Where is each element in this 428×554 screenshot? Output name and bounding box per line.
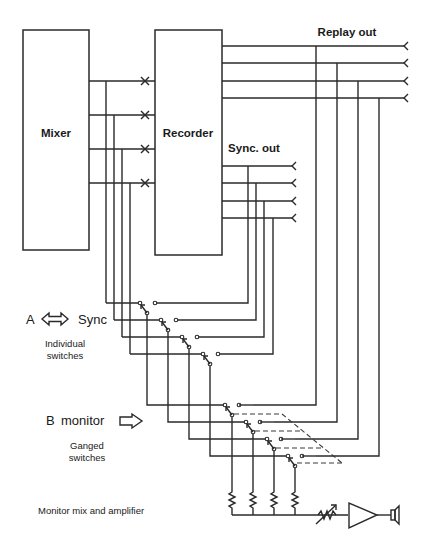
resistor-icon bbox=[229, 490, 298, 515]
svg-text:B: B bbox=[46, 413, 55, 428]
svg-text:monitor: monitor bbox=[61, 413, 105, 428]
svg-text:Sync: Sync bbox=[78, 312, 107, 327]
mixer-label: Mixer bbox=[41, 127, 72, 139]
switch-3[interactable] bbox=[180, 335, 199, 349]
break-cross-icon bbox=[141, 77, 149, 187]
svg-text:switches: switches bbox=[69, 452, 106, 463]
individual-switches bbox=[106, 301, 288, 456]
svg-text:Ganged: Ganged bbox=[70, 440, 104, 451]
speaker-icon bbox=[391, 506, 399, 524]
mode-b-label: B monitor Ganged switches bbox=[46, 413, 142, 463]
ganged-switches bbox=[223, 403, 342, 490]
switch-1[interactable] bbox=[138, 301, 157, 315]
double-arrow-icon bbox=[42, 313, 68, 325]
recorder-block: Recorder bbox=[155, 30, 222, 255]
mixer-block: Mixer bbox=[23, 30, 89, 250]
replay-out-lines: Replay out bbox=[222, 26, 408, 456]
replay-out-label: Replay out bbox=[318, 26, 377, 38]
recorder-label: Recorder bbox=[163, 127, 214, 139]
svg-text:Monitor mix and amplifier: Monitor mix and amplifier bbox=[38, 505, 144, 516]
output-jack-icon bbox=[404, 42, 408, 102]
mode-a-label: A Sync Individual switches bbox=[26, 312, 107, 361]
right-arrow-icon bbox=[120, 414, 142, 428]
ganged-switch-1[interactable] bbox=[223, 403, 241, 417]
ganged-switch-4[interactable] bbox=[286, 454, 304, 468]
switch-2[interactable] bbox=[159, 318, 178, 332]
amplifier-icon bbox=[349, 503, 377, 528]
svg-text:A: A bbox=[26, 312, 35, 327]
switch-4[interactable] bbox=[201, 352, 220, 366]
monitor-mix-amplifier: Monitor mix and amplifier bbox=[38, 490, 399, 528]
svg-text:Individual: Individual bbox=[45, 338, 85, 349]
wiring-diagram: Mixer Recorder Replay out bbox=[0, 0, 428, 554]
output-jack-icon bbox=[292, 162, 296, 222]
svg-text:switches: switches bbox=[47, 350, 84, 361]
sync-out-label: Sync. out bbox=[228, 142, 280, 154]
ganged-switch-2[interactable] bbox=[244, 420, 262, 434]
ganged-switch-3[interactable] bbox=[265, 437, 283, 451]
